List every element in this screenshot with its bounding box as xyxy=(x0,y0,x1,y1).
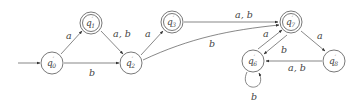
label-q6-self: b xyxy=(251,91,257,102)
state-q6: q′6 xyxy=(242,50,264,72)
label-q8-q6: a, b xyxy=(288,62,306,73)
label-q1-q2: a, b xyxy=(113,28,131,39)
state-q1: q′1 xyxy=(80,12,102,34)
label-q0-q2: b xyxy=(89,67,95,78)
edge-q6-q7 xyxy=(258,30,282,49)
state-q2: q′2 xyxy=(120,52,142,74)
state-q7: q′7 xyxy=(280,11,302,33)
automaton-diagram: a b a, b a b a, b a b a a, b b q′0 q′1 q… xyxy=(0,0,363,103)
label-q0-q1: a xyxy=(66,30,72,41)
label-q6-q7: a xyxy=(263,28,269,39)
label-q7-q8: a xyxy=(317,30,323,41)
label-q2-q7: b xyxy=(209,38,215,49)
label-q2-q3: a xyxy=(145,28,151,39)
state-q0: q′0 xyxy=(41,52,63,74)
state-q8: q′8 xyxy=(323,50,345,72)
edge-q6-self xyxy=(245,72,260,87)
label-q7-q6: b xyxy=(281,44,287,55)
label-q3-q7: a, b xyxy=(235,9,253,20)
state-q3: q′3 xyxy=(161,11,183,33)
